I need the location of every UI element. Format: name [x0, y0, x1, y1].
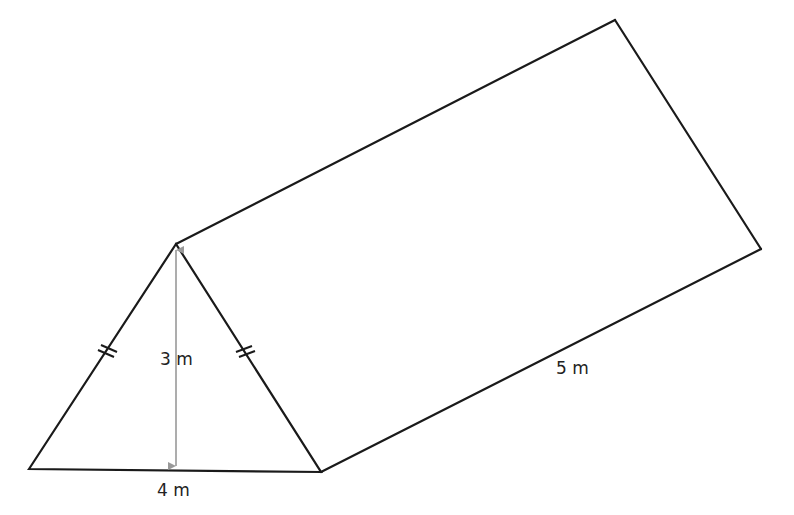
base-label: 4 m [157, 480, 190, 500]
bottom-length-edge [321, 249, 761, 472]
height-label: 3 m [160, 349, 193, 369]
back-right-edge [615, 20, 761, 249]
triangular-prism-diagram: 3 m 4 m 5 m [0, 0, 794, 515]
length-label: 5 m [556, 358, 589, 378]
top-ridge-edge [176, 20, 615, 244]
equal-side-tick-left [98, 345, 117, 357]
